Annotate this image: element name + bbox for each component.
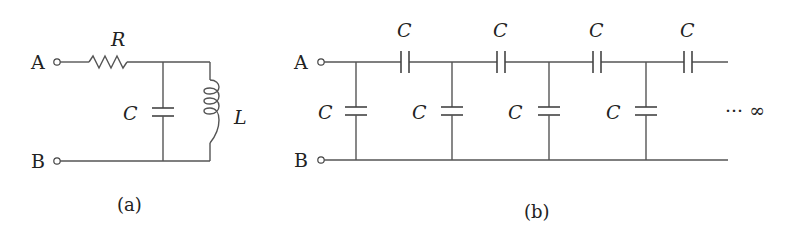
- series-capacitor-3: C: [589, 19, 604, 73]
- series-capacitor-1: C: [397, 19, 412, 73]
- terminal-b: [54, 158, 60, 164]
- circuit-b: A B C C C C: [293, 19, 765, 222]
- inductor-symbol: [204, 80, 219, 143]
- shunt-capacitor-3: C: [508, 62, 560, 160]
- series-capacitor-2: C: [493, 19, 508, 73]
- capacitor-label: C: [508, 101, 523, 123]
- terminal-a-label: A: [293, 51, 308, 73]
- caption-a: (a): [117, 194, 142, 215]
- capacitor-label: C: [318, 101, 333, 123]
- capacitor-label: C: [589, 19, 604, 41]
- shunt-capacitor-2: C: [412, 62, 463, 160]
- inductor-label: L: [233, 106, 247, 128]
- resistor-symbol: [89, 56, 127, 68]
- terminal-a-label: A: [30, 51, 45, 73]
- terminal-b-label: B: [31, 150, 45, 172]
- shunt-capacitor-1: C: [318, 62, 367, 160]
- infinity-continuation: ··· ∞: [725, 99, 765, 121]
- resistor-label: R: [110, 28, 125, 50]
- capacitor-label: C: [123, 102, 138, 124]
- terminal-a: [54, 59, 60, 65]
- capacitor-label: C: [493, 19, 508, 41]
- capacitor-label: C: [680, 19, 695, 41]
- capacitor-label: C: [412, 101, 427, 123]
- circuit-figure: A R C L B (a) A B: [0, 0, 788, 241]
- terminal-b: [318, 157, 324, 163]
- series-capacitor-4: C: [680, 19, 695, 73]
- shunt-capacitor-4: C: [606, 62, 657, 160]
- circuit-a: A R C L B (a): [30, 28, 247, 215]
- capacitor-label: C: [397, 19, 412, 41]
- terminal-b-label: B: [294, 149, 308, 171]
- capacitor-label: C: [606, 101, 621, 123]
- terminal-a: [318, 59, 324, 65]
- caption-b: (b): [524, 201, 550, 222]
